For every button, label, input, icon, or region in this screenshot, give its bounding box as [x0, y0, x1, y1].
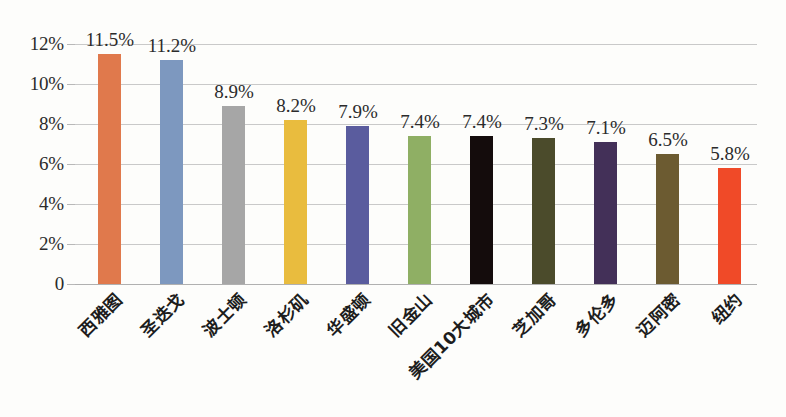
y-axis-tick-label: 0 [0, 274, 64, 293]
bar[interactable] [98, 54, 121, 284]
x-axis-category-text: 华盛顿 [324, 290, 374, 340]
bar[interactable] [594, 142, 617, 284]
bar-chart: 11.5%11.2%8.9%8.2%7.9%7.4%7.4%7.3%7.1%6.… [0, 0, 786, 417]
bar-slot: 8.9% [203, 44, 265, 284]
y-tick-mark [67, 284, 75, 285]
y-tick-mark [67, 124, 75, 125]
y-axis-tick-label: 10% [0, 74, 64, 93]
bar-value-label: 11.2% [132, 36, 212, 56]
bar-value-label: 5.8% [690, 144, 770, 164]
bar[interactable] [284, 120, 307, 284]
bar[interactable] [160, 60, 183, 284]
y-tick-mark [67, 164, 75, 165]
x-axis-category-text: 洛杉矶 [262, 290, 312, 340]
bar-slot: 11.2% [141, 44, 203, 284]
y-axis-tick-label: 6% [0, 154, 64, 173]
y-axis-tick-label: 12% [0, 34, 64, 53]
plot-area: 11.5%11.2%8.9%8.2%7.9%7.4%7.4%7.3%7.1%6.… [75, 44, 757, 284]
y-tick-mark [67, 84, 75, 85]
bar[interactable] [656, 154, 679, 284]
bar-slot: 11.5% [79, 44, 141, 284]
y-axis-tick-label: 8% [0, 114, 64, 133]
x-axis-category-text: 多伦多 [572, 290, 622, 340]
x-axis-category-text: 迈阿密 [634, 290, 684, 340]
bar-slot: 7.9% [327, 44, 389, 284]
bar[interactable] [408, 136, 431, 284]
x-axis-category-text: 纽约 [708, 290, 745, 327]
y-axis-tick-label: 4% [0, 194, 64, 213]
bar[interactable] [346, 126, 369, 284]
bar-slot: 8.2% [265, 44, 327, 284]
bar-slot: 7.1% [575, 44, 637, 284]
bar[interactable] [470, 136, 493, 284]
bar[interactable] [718, 168, 741, 284]
y-tick-mark [67, 244, 75, 245]
x-axis-category-text: 旧金山 [386, 290, 436, 340]
bar-slot: 6.5% [637, 44, 699, 284]
bar[interactable] [222, 106, 245, 284]
bar-slot: 7.4% [451, 44, 513, 284]
y-tick-mark [67, 204, 75, 205]
gridline-0 [75, 284, 757, 285]
y-axis-tick-label: 2% [0, 234, 64, 253]
x-axis-category-text: 芝加哥 [510, 290, 560, 340]
x-axis-category-text: 波士顿 [200, 290, 250, 340]
bar-slot: 5.8% [699, 44, 761, 284]
x-axis-category-text: 圣迭戈 [138, 290, 188, 340]
bar-slot: 7.4% [389, 44, 451, 284]
x-axis-category-text: 西雅图 [76, 290, 126, 340]
